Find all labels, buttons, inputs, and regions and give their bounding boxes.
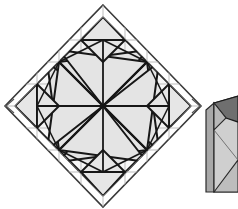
- prism-left-face: [206, 103, 214, 192]
- crease-pattern-group: [0, 0, 238, 209]
- figure-root: Crease pattern diamond with folded prism…: [0, 0, 238, 209]
- geometry-figure: [0, 0, 238, 209]
- prism-model-group: [206, 96, 238, 192]
